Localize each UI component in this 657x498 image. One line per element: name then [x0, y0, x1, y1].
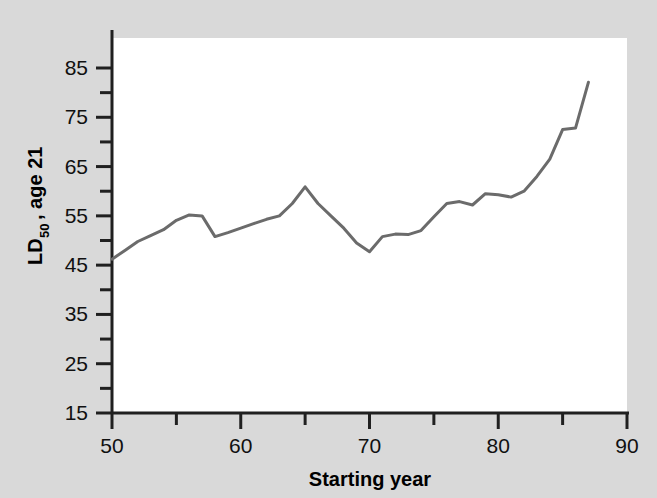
x-tick-label: 90 [615, 434, 638, 457]
x-tick-label: 50 [100, 434, 123, 457]
y-tick-label: 55 [65, 204, 88, 227]
y-axis-title-main: LD [24, 238, 46, 265]
y-tick-label: 15 [65, 401, 88, 424]
x-tick-label: 80 [487, 434, 510, 457]
y-tick-label: 45 [65, 253, 88, 276]
y-tick-label: 65 [65, 155, 88, 178]
y-tick-label: 35 [65, 302, 88, 325]
line-chart: 1525354555657585 5060708090 LD 50 , age … [0, 0, 657, 498]
y-tick-label: 85 [65, 56, 88, 79]
x-tick-label: 60 [229, 434, 252, 457]
chart-figure: 1525354555657585 5060708090 LD 50 , age … [0, 0, 657, 498]
y-tick-label: 25 [65, 352, 88, 375]
x-axis-title: Starting year [309, 468, 431, 490]
x-tick-label: 70 [358, 434, 381, 457]
plot-area-background [112, 38, 627, 413]
y-axis-title-subscript: 50 [37, 224, 52, 238]
y-axis-title-rest: , age 21 [24, 147, 46, 220]
y-tick-label: 75 [65, 105, 88, 128]
